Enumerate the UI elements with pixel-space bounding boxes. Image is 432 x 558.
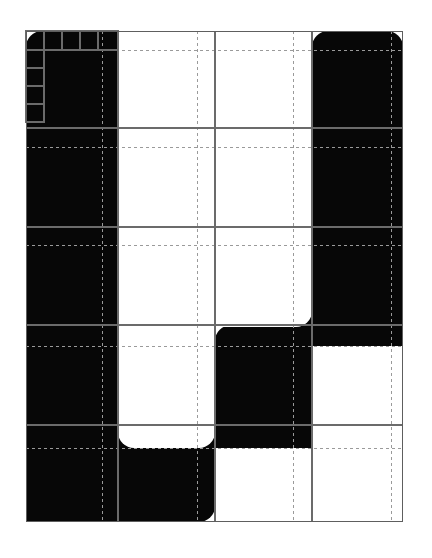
cutout-cutout-mid-right: [215, 245, 312, 325]
figure-canvas: [0, 0, 432, 558]
cutout-cutout-mid-left: [118, 325, 215, 448]
block-block-bottom-left-foot: [26, 425, 118, 522]
cutout-cutout-bottom-right: [215, 448, 403, 522]
modular-grid-plan: [0, 0, 432, 558]
